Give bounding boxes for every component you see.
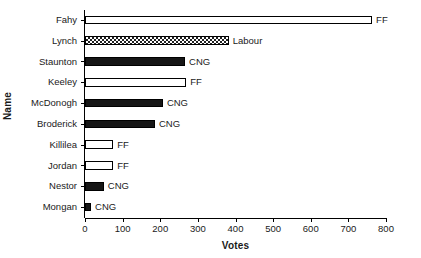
x-axis-tick-label: 400 bbox=[216, 223, 256, 235]
category-label: Fahy bbox=[56, 13, 77, 27]
category-label: Jordan bbox=[48, 159, 77, 173]
x-axis-tick-label: 100 bbox=[103, 223, 143, 235]
x-axis-tick-label: 300 bbox=[178, 223, 218, 235]
bar-row: BroderickCNG bbox=[85, 114, 386, 135]
x-axis-tick-label: 0 bbox=[65, 223, 105, 235]
plot-area: FahyFFLynchLabourStauntonCNGKeeleyFFMcDo… bbox=[85, 10, 386, 218]
bar-row: StauntonCNG bbox=[85, 52, 386, 73]
bar[interactable] bbox=[85, 16, 372, 25]
bar[interactable] bbox=[85, 120, 155, 129]
bar-annotation-label: CNG bbox=[108, 179, 129, 193]
x-axis-tick bbox=[198, 218, 199, 222]
x-axis-tick bbox=[123, 218, 124, 222]
bar-annotation-label: CNG bbox=[189, 55, 210, 69]
bar-annotation-label: Labour bbox=[233, 34, 263, 48]
bar-row: McDonoghCNG bbox=[85, 93, 386, 114]
bar[interactable] bbox=[85, 99, 163, 108]
x-axis-tick-label: 800 bbox=[366, 223, 406, 235]
bar-row: JordanFF bbox=[85, 156, 386, 177]
bar-annotation-label: FF bbox=[376, 13, 388, 27]
x-axis-tick bbox=[311, 218, 312, 222]
bar[interactable] bbox=[85, 36, 229, 45]
bar[interactable] bbox=[85, 182, 104, 191]
bar[interactable] bbox=[85, 140, 113, 149]
category-label: Keeley bbox=[48, 75, 77, 89]
bar-chart: Name Votes FahyFFLynchLabourStauntonCNGK… bbox=[0, 0, 421, 258]
category-label: Mongan bbox=[43, 200, 77, 214]
bar-annotation-label: FF bbox=[190, 75, 202, 89]
bar-row: NestorCNG bbox=[85, 176, 386, 197]
x-axis-tick bbox=[348, 218, 349, 222]
bar-row: LynchLabour bbox=[85, 31, 386, 52]
bar[interactable] bbox=[85, 78, 186, 87]
x-axis-tick bbox=[273, 218, 274, 222]
x-axis-tick-label: 500 bbox=[253, 223, 293, 235]
x-axis-tick-label: 200 bbox=[140, 223, 180, 235]
x-axis-tick bbox=[386, 218, 387, 222]
category-label: Broderick bbox=[37, 117, 77, 131]
category-label: McDonogh bbox=[31, 96, 77, 110]
bar[interactable] bbox=[85, 203, 91, 212]
x-axis-tick bbox=[160, 218, 161, 222]
bar-row: KillileaFF bbox=[85, 135, 386, 156]
category-label: Lynch bbox=[52, 34, 77, 48]
x-axis-tick bbox=[85, 218, 86, 222]
bar-annotation-label: FF bbox=[117, 159, 129, 173]
bar-row: MonganCNG bbox=[85, 197, 386, 218]
bar-annotation-label: CNG bbox=[167, 96, 188, 110]
category-label: Staunton bbox=[39, 55, 77, 69]
y-axis-title: Name bbox=[2, 92, 16, 120]
bar-annotation-label: CNG bbox=[95, 200, 116, 214]
x-axis-tick-label: 600 bbox=[291, 223, 331, 235]
x-axis-tick bbox=[236, 218, 237, 222]
bar-annotation-label: FF bbox=[117, 138, 129, 152]
x-axis-title: Votes bbox=[85, 240, 386, 251]
bar-row: KeeleyFF bbox=[85, 72, 386, 93]
category-label: Nestor bbox=[49, 179, 77, 193]
category-label: Killilea bbox=[50, 138, 77, 152]
bar[interactable] bbox=[85, 57, 185, 66]
bar-annotation-label: CNG bbox=[159, 117, 180, 131]
x-axis-tick-label: 700 bbox=[328, 223, 368, 235]
bar-row: FahyFF bbox=[85, 10, 386, 31]
bar[interactable] bbox=[85, 161, 113, 170]
